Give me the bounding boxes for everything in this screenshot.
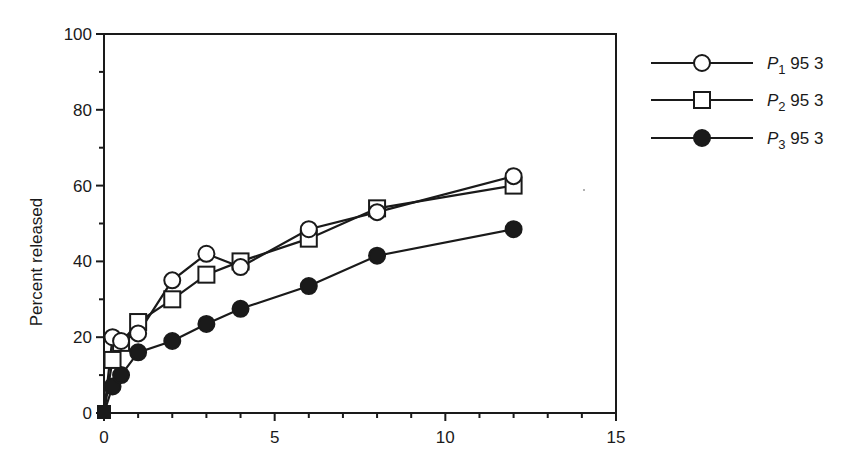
series-3 bbox=[104, 229, 514, 413]
open-square-marker bbox=[164, 291, 180, 307]
filled-circle-marker bbox=[164, 333, 180, 349]
legend-item-1: P1 95 3 bbox=[651, 54, 823, 77]
y-tick-label: 60 bbox=[73, 177, 92, 196]
open-square-marker bbox=[694, 92, 710, 108]
open-circle-marker bbox=[113, 333, 129, 349]
x-tick-label: 15 bbox=[607, 428, 626, 447]
open-circle-marker bbox=[233, 259, 249, 275]
y-tick-label: 0 bbox=[83, 404, 92, 423]
filled-circle-marker bbox=[113, 367, 129, 383]
stray-speck bbox=[583, 189, 585, 191]
open-circle-marker bbox=[506, 168, 522, 184]
plot-border bbox=[104, 34, 616, 413]
open-circle-marker bbox=[198, 246, 214, 262]
y-axis: 020406080100 bbox=[64, 25, 104, 423]
x-axis: 051015 bbox=[99, 413, 625, 447]
plot-frame bbox=[104, 34, 616, 413]
y-tick-label: 80 bbox=[73, 101, 92, 120]
legend-item-2: P2 95 3 bbox=[651, 91, 823, 114]
y-tick-label: 20 bbox=[73, 328, 92, 347]
filled-circle-marker bbox=[198, 316, 214, 332]
open-square-marker bbox=[105, 352, 121, 368]
y-axis-title: Percent released bbox=[27, 198, 46, 327]
y-tick-label: 40 bbox=[73, 252, 92, 271]
legend: P1 95 3P2 95 3P3 95 3 bbox=[651, 54, 823, 152]
y-tick-label: 100 bbox=[64, 25, 92, 44]
series-line bbox=[104, 229, 514, 413]
open-circle-marker bbox=[694, 55, 710, 71]
x-tick-label: 5 bbox=[270, 428, 279, 447]
filled-circle-marker bbox=[130, 344, 146, 360]
open-circle-marker bbox=[369, 204, 385, 220]
release-chart: 051015 020406080100 Percent released P1 … bbox=[0, 0, 858, 467]
legend-label: P2 95 3 bbox=[767, 91, 823, 114]
filled-circle-marker bbox=[506, 221, 522, 237]
open-circle-marker bbox=[164, 272, 180, 288]
open-circle-marker bbox=[301, 221, 317, 237]
origin-marker bbox=[97, 405, 111, 419]
series-layer bbox=[97, 168, 585, 419]
filled-circle-marker bbox=[369, 248, 385, 264]
filled-circle-marker bbox=[694, 130, 710, 146]
open-square-marker bbox=[198, 267, 214, 283]
legend-label: P1 95 3 bbox=[767, 54, 823, 77]
open-circle-marker bbox=[130, 325, 146, 341]
filled-circle-marker bbox=[301, 278, 317, 294]
legend-label: P3 95 3 bbox=[767, 129, 823, 152]
filled-circle-marker bbox=[233, 301, 249, 317]
legend-item-3: P3 95 3 bbox=[651, 129, 823, 152]
x-tick-label: 10 bbox=[436, 428, 455, 447]
x-tick-label: 0 bbox=[99, 428, 108, 447]
